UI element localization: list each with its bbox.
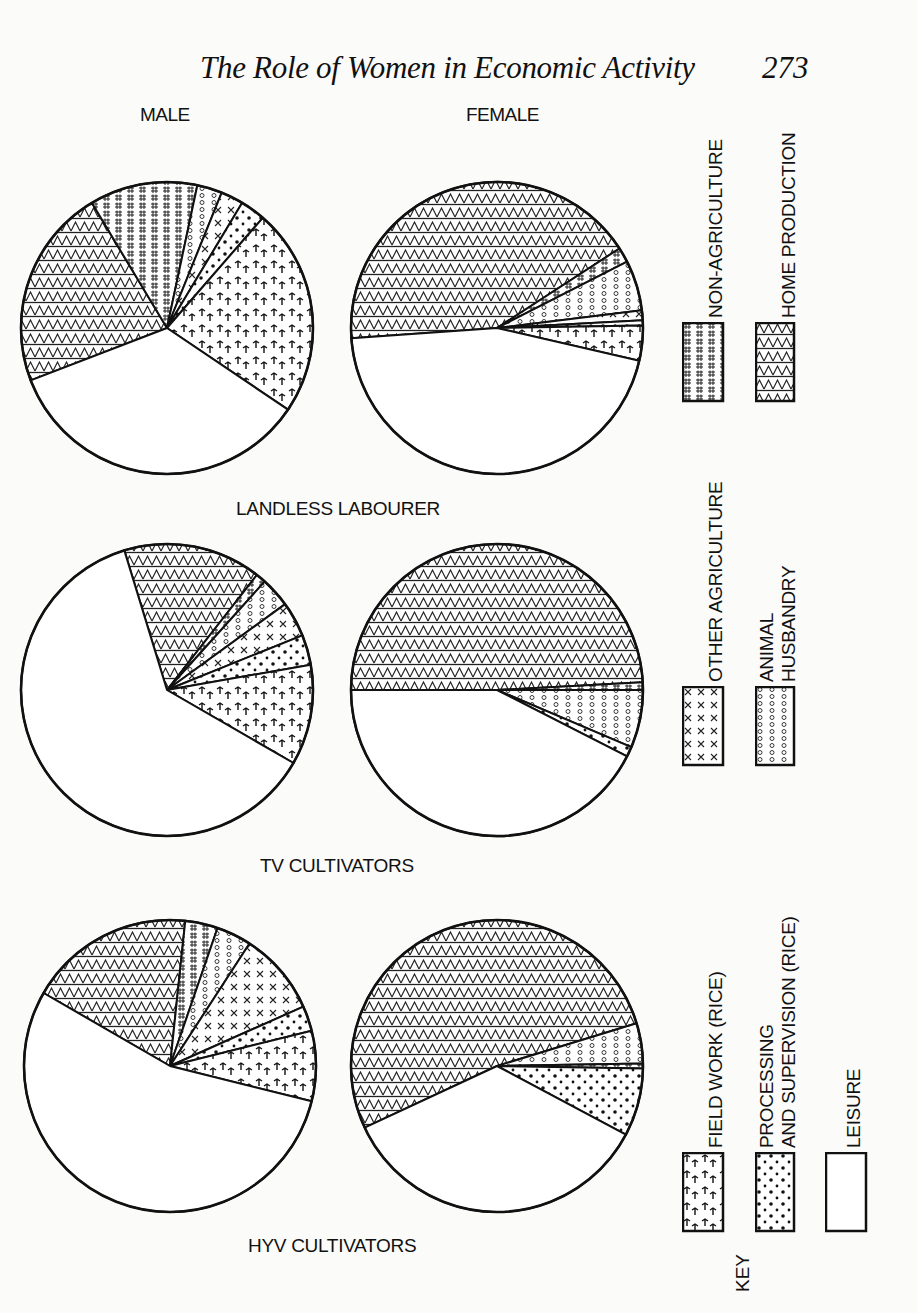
slice-home-production bbox=[351, 544, 643, 690]
group-label-hyv: HYV CULTIVATORS bbox=[248, 1235, 416, 1257]
pie-tv-male bbox=[17, 540, 317, 840]
legend-label-processing-1: PROCESSING bbox=[756, 1024, 778, 1148]
pie-tv-female bbox=[347, 540, 647, 840]
legend-label-home-production: HOME PRODUCTION bbox=[778, 132, 800, 318]
legend-swatch-other-agriculture bbox=[682, 686, 726, 768]
legend-swatch-field-work bbox=[682, 1152, 726, 1234]
pie-landless-female bbox=[347, 178, 647, 478]
legend-swatch-animal-husbandry bbox=[755, 686, 799, 768]
pie-hyv-female bbox=[347, 916, 647, 1216]
legend-label-other-agriculture: OTHER AGRICULTURE bbox=[705, 482, 727, 682]
legend-swatch-home-production bbox=[755, 322, 799, 404]
legend-swatch-processing bbox=[755, 1152, 799, 1234]
legend-label-processing-2: AND SUPERVISION (RICE) bbox=[778, 916, 800, 1148]
column-label-female: FEMALE bbox=[466, 104, 539, 126]
legend-swatch-non-agriculture bbox=[682, 322, 726, 404]
running-title: The Role of Women in Economic Activity bbox=[200, 50, 695, 86]
legend-title: KEY bbox=[732, 1254, 754, 1292]
column-label-male: MALE bbox=[140, 104, 190, 126]
group-label-tv: TV CULTIVATORS bbox=[260, 855, 414, 877]
legend-label-leisure: LEISURE bbox=[843, 1069, 865, 1148]
legend-swatch-leisure bbox=[825, 1152, 869, 1234]
legend-label-animal-husbandry-1: ANIMAL bbox=[756, 613, 778, 682]
legend-label-non-agriculture: NON-AGRICULTURE bbox=[705, 139, 727, 318]
group-label-landless: LANDLESS LABOURER bbox=[236, 498, 440, 520]
legend-label-animal-husbandry-2: HUSBANDRY bbox=[778, 566, 800, 682]
pie-hyv-male bbox=[20, 916, 320, 1216]
pie-landless-male bbox=[17, 178, 317, 478]
legend: NON-AGRICULTURE HOME PRODUCTION OTHER AG… bbox=[660, 0, 917, 1313]
legend-label-field-work: FIELD WORK (RICE) bbox=[705, 972, 727, 1148]
slice-leisure bbox=[351, 328, 639, 474]
